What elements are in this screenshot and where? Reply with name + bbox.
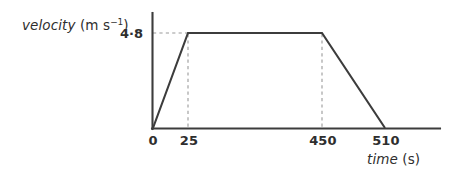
x-axis-variable: time	[367, 151, 398, 167]
x-axis-title: time (s)	[367, 153, 420, 167]
x-tick-label-25: 25	[180, 134, 199, 147]
y-axis-unit-open: (m s	[80, 17, 110, 33]
x-tick-label-0: 0	[148, 134, 157, 147]
y-axis-variable: velocity	[22, 17, 76, 33]
x-axis-unit-text: (s)	[402, 151, 420, 167]
velocity-time-chart: velocity (m s−1) 4·8 0 25 450 510 time (…	[0, 0, 466, 178]
x-tick-label-450: 450	[309, 134, 337, 147]
y-tick-label-4-8: 4·8	[120, 27, 143, 40]
y-axis-title: velocity (m s−1)	[22, 18, 129, 32]
x-tick-label-510: 510	[372, 134, 400, 147]
x-axis-unit: (s)	[398, 151, 420, 167]
